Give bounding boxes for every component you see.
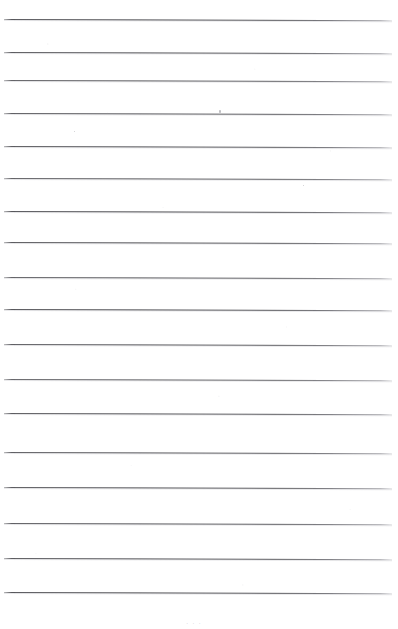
rule-line xyxy=(4,113,392,115)
rule-line xyxy=(4,52,392,54)
rule-line xyxy=(4,242,392,244)
rule-line xyxy=(4,178,392,180)
rule-line xyxy=(4,344,392,346)
page-bottom-mark: · · · xyxy=(186,620,202,627)
rule-line xyxy=(4,80,392,82)
rule-line xyxy=(4,19,392,21)
ink-speck-faint-mid xyxy=(303,185,304,186)
rule-line xyxy=(4,211,392,213)
rule-line xyxy=(4,558,392,560)
rule-line xyxy=(4,452,392,454)
rule-line xyxy=(4,146,392,148)
rule-line xyxy=(4,487,392,489)
rule-line xyxy=(4,379,392,381)
ruled-lines-layer xyxy=(0,0,398,629)
rule-line xyxy=(4,413,392,415)
scanned-page: · · · xyxy=(0,0,398,629)
rule-line xyxy=(4,523,392,525)
rule-line xyxy=(4,309,392,311)
rule-line xyxy=(4,277,392,279)
ink-speck-upper xyxy=(219,110,221,113)
rule-line xyxy=(4,592,392,594)
